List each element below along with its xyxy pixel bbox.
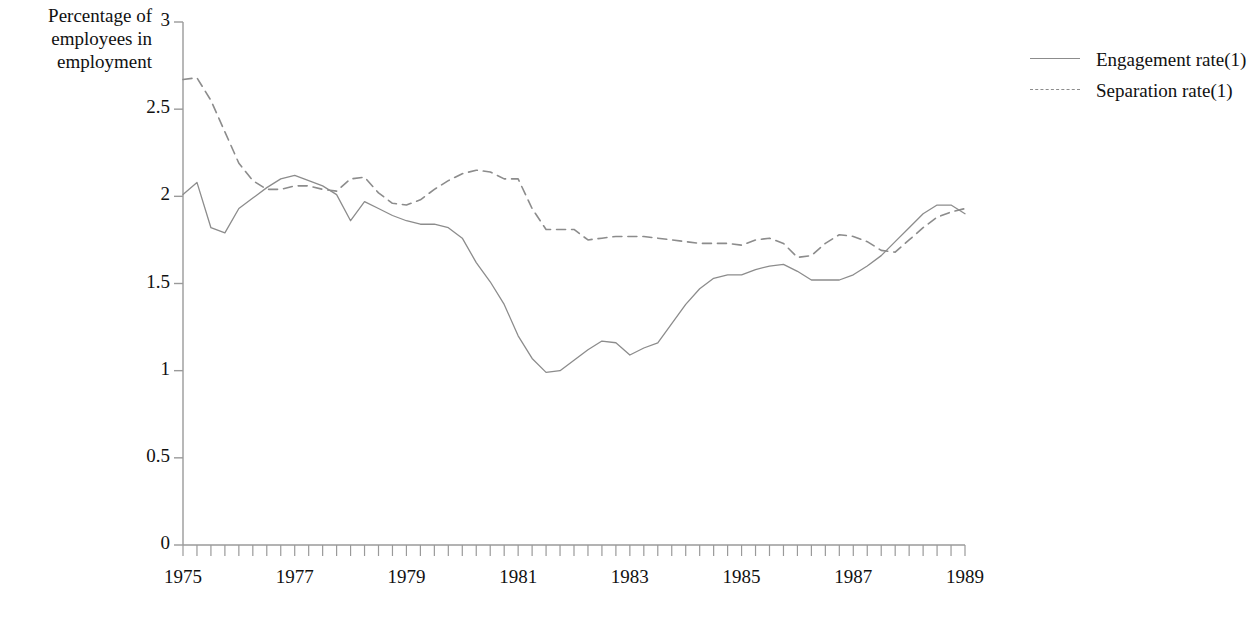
- x-axis-tick-label: 1977: [260, 566, 330, 588]
- y-axis-tick-label: 3: [126, 9, 170, 31]
- x-axis-ticks: [183, 545, 965, 556]
- x-axis-tick-label: 1989: [930, 566, 1000, 588]
- y-axis-tick-label: 1: [126, 358, 170, 380]
- legend-label-separation-rate: Separation rate(1): [1096, 80, 1233, 102]
- x-axis-tick-label: 1975: [148, 566, 218, 588]
- y-axis-tick-label: 1.5: [126, 271, 170, 293]
- legend-item-engagement-rate: Engagement rate(1): [1030, 44, 1246, 75]
- y-axis-tick-label: 0: [126, 532, 170, 554]
- axes: [183, 22, 965, 545]
- series-line-separation-rate-1: [183, 78, 965, 258]
- chart-figure: Percentage of employees in employment 32…: [0, 0, 1255, 618]
- legend-label-engagement-rate: Engagement rate(1): [1096, 49, 1246, 71]
- x-axis-tick-label: 1979: [371, 566, 441, 588]
- x-axis-tick-label: 1981: [483, 566, 553, 588]
- x-axis-tick-label: 1987: [818, 566, 888, 588]
- series-line-engagement-rate-1: [183, 175, 965, 372]
- y-axis-tick-label: 2.5: [126, 96, 170, 118]
- x-axis-tick-label: 1985: [707, 566, 777, 588]
- x-axis-tick-label: 1983: [595, 566, 665, 588]
- y-axis-tick-label: 2: [126, 183, 170, 205]
- chart-legend: Engagement rate(1) Separation rate(1): [1030, 44, 1246, 106]
- data-series-group: [183, 78, 965, 373]
- y-axis-tick-label: 0.5: [126, 445, 170, 467]
- dashed-line-icon: [1030, 89, 1080, 92]
- solid-line-icon: [1030, 58, 1080, 61]
- y-axis-ticks: [174, 22, 183, 545]
- legend-item-separation-rate: Separation rate(1): [1030, 75, 1246, 106]
